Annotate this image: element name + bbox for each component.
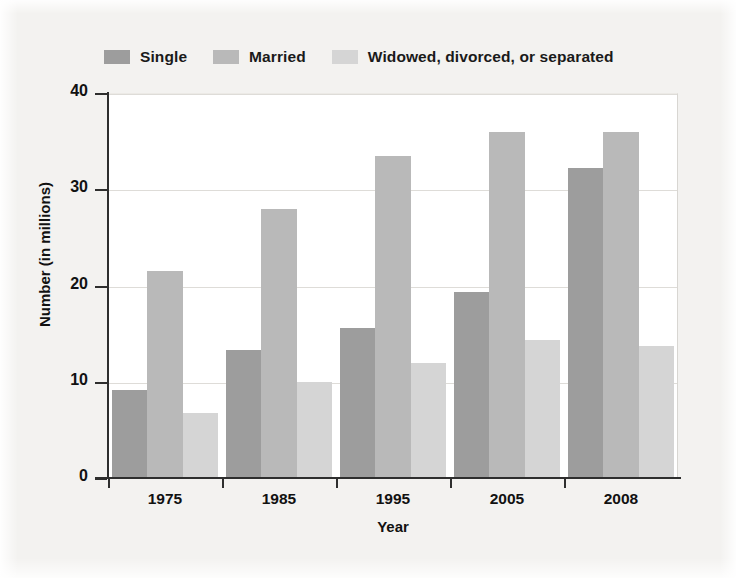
y-tick-label: 10 [42,371,88,389]
chart-figure: SingleMarriedWidowed, divorced, or separ… [0,0,736,578]
x-tick-mark [108,477,110,488]
legend-entry[interactable]: Married [213,48,306,66]
x-tick-mark [222,477,224,488]
x-tick-label: 1985 [234,490,324,508]
bar[interactable] [226,350,262,478]
bar[interactable] [489,132,525,479]
bar[interactable] [603,132,639,479]
legend-label: Single [140,48,187,66]
y-tick-label: 40 [42,82,88,100]
x-tick-mark [564,477,566,488]
bar[interactable] [297,382,333,478]
y-tick-mark [95,478,107,480]
bar[interactable] [261,209,297,478]
bar[interactable] [112,390,148,478]
x-tick-label: 2008 [576,490,666,508]
bar[interactable] [375,156,411,478]
y-axis-title: Number (in millions) [36,125,53,385]
bar[interactable] [411,363,447,479]
bar[interactable] [454,292,490,478]
y-tick-mark [95,189,107,191]
x-tick-label: 1975 [120,490,210,508]
y-axis-line [107,92,109,479]
y-tick-mark [95,382,107,384]
y-tick-label: 0 [42,467,88,485]
legend-swatch-icon [332,50,358,64]
y-tick-mark [95,93,107,95]
bar[interactable] [183,413,219,478]
bar[interactable] [639,346,675,478]
legend-swatch-icon [213,50,239,64]
chart-legend: SingleMarriedWidowed, divorced, or separ… [104,46,614,68]
bar[interactable] [340,328,376,478]
x-tick-mark [450,477,452,488]
legend-label: Widowed, divorced, or separated [368,48,614,66]
x-tick-label: 2005 [462,490,552,508]
y-tick-mark [95,286,107,288]
x-tick-mark [336,477,338,488]
legend-label: Married [249,48,306,66]
bar[interactable] [147,271,183,478]
y-tick-label: 20 [42,275,88,293]
x-tick-label: 1995 [348,490,438,508]
x-axis-line [95,477,681,479]
bars-layer [108,93,678,478]
bar[interactable] [568,168,604,478]
legend-swatch-icon [104,50,130,64]
legend-entry[interactable]: Widowed, divorced, or separated [332,48,614,66]
legend-entry[interactable]: Single [104,48,187,66]
y-tick-label: 30 [42,178,88,196]
bar[interactable] [525,340,561,478]
x-axis-title: Year [108,518,678,535]
